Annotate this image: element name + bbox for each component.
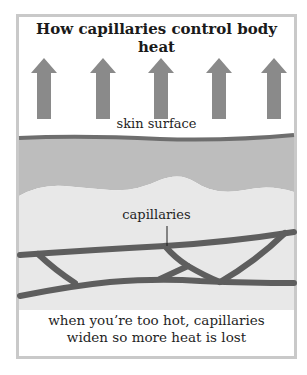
heat-arrow-icon xyxy=(148,58,174,119)
heat-arrow-icon xyxy=(206,58,232,119)
capillaries-label: capillaries xyxy=(16,207,297,222)
caption-line-2: widen so more heat is lost xyxy=(16,329,297,346)
heat-arrow-icon xyxy=(31,58,57,119)
caption: when you’re too hot, capillaries widen s… xyxy=(16,312,297,346)
skin-surface-label: skin surface xyxy=(16,116,297,131)
heat-arrows xyxy=(31,58,287,119)
heat-arrow-icon xyxy=(261,58,287,119)
heat-arrow-icon xyxy=(90,58,116,119)
diagram-title: How capillaries control body heat xyxy=(16,20,297,56)
caption-line-1: when you’re too hot, capillaries xyxy=(16,312,297,329)
